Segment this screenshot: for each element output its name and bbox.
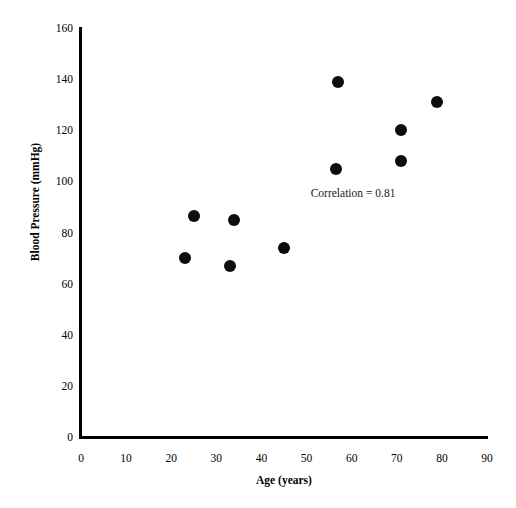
x-tick-label: 30: [196, 452, 236, 464]
x-tick-label: 90: [467, 452, 507, 464]
x-tick-label: 20: [151, 452, 191, 464]
data-point: [188, 210, 200, 222]
x-tick-label: 80: [422, 452, 462, 464]
x-tick-label: 0: [61, 452, 101, 464]
data-point: [278, 242, 290, 254]
data-point: [330, 163, 342, 175]
data-point: [179, 252, 191, 264]
data-point: [332, 76, 344, 88]
data-point: [224, 260, 236, 272]
data-point: [395, 155, 407, 167]
y-axis-title: Blood Pressure (mmHg): [29, 107, 41, 297]
data-point: [228, 214, 240, 226]
data-point: [431, 96, 443, 108]
x-tick-label: 50: [287, 452, 327, 464]
x-tick-label: 40: [241, 452, 281, 464]
x-axis-title: Age (years): [81, 474, 487, 486]
data-point: [395, 124, 407, 136]
x-tick-label: 70: [377, 452, 417, 464]
correlation-annotation: Correlation = 0.81: [311, 187, 396, 200]
x-tick-label: 10: [106, 452, 146, 464]
plot-area: [81, 28, 487, 437]
scatter-plot-figure: 020406080100120140160 010203040506070809…: [0, 0, 516, 508]
x-tick-label: 60: [332, 452, 372, 464]
